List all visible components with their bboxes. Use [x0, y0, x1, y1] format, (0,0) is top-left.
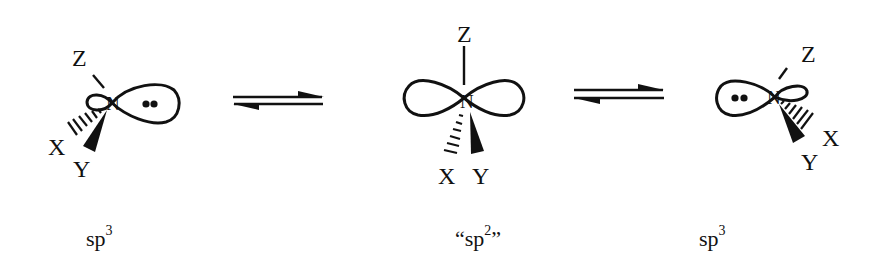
- equilibrium-arrow-2: [574, 84, 664, 104]
- left-molecule: Z N X Y sp3: [48, 45, 179, 251]
- equilibrium-arrow-1: [233, 91, 324, 110]
- right-z-bond: [779, 68, 787, 79]
- left-x-label: X: [48, 134, 65, 160]
- center-z-label: Z: [457, 21, 472, 47]
- center-n-atom: N: [460, 91, 474, 112]
- left-y-label: Y: [73, 156, 90, 182]
- center-hashed-wedge: [444, 115, 463, 153]
- center-hybridization-label: “sp2”: [455, 223, 501, 251]
- left-n-atom: N: [106, 93, 120, 114]
- center-x-label: X: [438, 163, 455, 189]
- center-molecule: Z N X Y “sp2”: [404, 21, 524, 251]
- right-lone-pair-icon: [731, 94, 747, 101]
- right-n-atom: N: [767, 87, 781, 108]
- center-y-label: Y: [472, 163, 489, 189]
- center-left-lobe: [404, 81, 464, 116]
- nitrogen-inversion-diagram: Z N X Y sp3: [0, 0, 890, 268]
- right-x-label: X: [822, 125, 839, 151]
- right-z-label: Z: [801, 41, 816, 67]
- left-z-bond: [93, 75, 104, 88]
- left-hybridization-label: sp3: [86, 223, 113, 251]
- center-solid-wedge: [470, 112, 484, 154]
- right-hybridization-label: sp3: [699, 223, 726, 251]
- right-y-label: Y: [801, 149, 818, 175]
- left-z-label: Z: [72, 45, 87, 71]
- left-lone-pair-icon: [142, 100, 157, 107]
- right-molecule: Z N X Y sp3: [699, 41, 839, 251]
